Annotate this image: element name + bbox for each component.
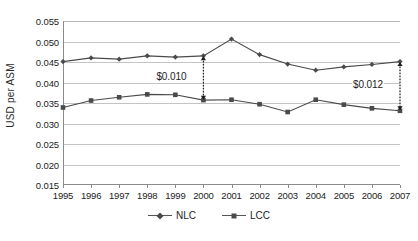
y-axis-tick-label: 0.020 (36, 159, 59, 170)
x-axis-tick-mark (175, 185, 176, 188)
y-axis-tick-label: 0.050 (36, 36, 59, 47)
x-axis-tick-mark (400, 185, 401, 188)
y-axis-tick-label: 0.025 (36, 139, 59, 150)
data-point (257, 102, 262, 107)
series-nlc (60, 36, 402, 72)
series-lcc (61, 92, 403, 114)
data-point (313, 97, 318, 102)
data-point (257, 52, 262, 57)
data-point (229, 36, 234, 41)
y-axis-title-text: USD per ASM (5, 63, 16, 127)
series-layer (63, 21, 400, 185)
data-point (145, 92, 150, 97)
data-point (341, 64, 346, 69)
annotation-arrowhead (201, 56, 206, 60)
legend-label: NLC (176, 210, 196, 221)
y-axis-tick-label: 0.040 (36, 77, 59, 88)
x-axis-tick-label: 2001 (221, 190, 241, 201)
x-axis-tick-mark (316, 185, 317, 188)
x-axis-tick-label: 2002 (249, 190, 269, 201)
x-axis-tick-label: 2007 (390, 190, 410, 201)
legend-diamond-icon (148, 211, 172, 221)
y-axis-tick-label: 0.030 (36, 118, 59, 129)
legend-item-lcc[interactable]: LCC (222, 210, 270, 221)
data-point (342, 102, 347, 107)
data-point (145, 53, 150, 58)
x-axis-tick-mark (232, 185, 233, 188)
data-point (61, 105, 66, 110)
legend-square-icon (222, 211, 246, 221)
legend-item-nlc[interactable]: NLC (148, 210, 196, 221)
x-axis-tick-label: 2000 (193, 190, 213, 201)
x-axis-tick-mark (288, 185, 289, 188)
data-point (117, 57, 122, 62)
y-axis-tick-label: 0.045 (36, 57, 59, 68)
x-axis-tick-mark (91, 185, 92, 188)
data-point (313, 68, 318, 73)
x-axis-tick-mark (260, 185, 261, 188)
x-axis-tick-mark (147, 185, 148, 188)
series-line (63, 39, 400, 70)
x-axis-tick-label: 2006 (362, 190, 382, 201)
x-axis-tick-label: 2003 (277, 190, 297, 201)
series-line (63, 94, 400, 112)
data-point (117, 95, 122, 100)
y-axis-tick-label: 0.055 (36, 16, 59, 27)
annotation-label: $0.010 (155, 71, 187, 82)
x-axis-tick-mark (203, 185, 204, 188)
annotation-arrowhead (397, 62, 402, 66)
annotation-label: $0.012 (352, 79, 384, 90)
data-point (369, 62, 374, 67)
y-axis-tick-label: 0.015 (36, 180, 59, 191)
data-point (285, 110, 290, 115)
x-axis-tick-label: 2005 (334, 190, 354, 201)
x-axis-tick-label: 1995 (53, 190, 73, 201)
data-point (370, 106, 375, 111)
y-axis-title: USD per ASM (0, 0, 20, 190)
data-point (285, 61, 290, 66)
x-axis-tick-mark (63, 185, 64, 188)
x-axis-tick-labels: 1995199619971998199920002001200220032004… (63, 188, 400, 206)
x-axis-tick-label: 1997 (109, 190, 129, 201)
data-point (89, 98, 94, 103)
legend-label: LCC (250, 210, 270, 221)
x-axis-tick-mark (119, 185, 120, 188)
x-axis-tick-label: 1996 (81, 190, 101, 201)
x-axis-tick-label: 1999 (165, 190, 185, 201)
data-point (173, 54, 178, 59)
chart-legend: NLCLCC (0, 210, 418, 221)
data-point (173, 93, 178, 98)
x-axis-tick-label: 1998 (137, 190, 157, 201)
x-axis-tick-label: 2004 (306, 190, 326, 201)
y-axis-tick-labels: 0.0550.0500.0450.0400.0350.0300.0250.020… (18, 0, 62, 190)
chart-container: USD per ASM 0.0550.0500.0450.0400.0350.0… (0, 0, 418, 241)
data-point (229, 97, 234, 102)
plot-area (63, 21, 400, 185)
data-point (88, 55, 93, 60)
x-axis-tick-mark (344, 185, 345, 188)
x-axis-tick-mark (372, 185, 373, 188)
y-axis-tick-label: 0.035 (36, 98, 59, 109)
